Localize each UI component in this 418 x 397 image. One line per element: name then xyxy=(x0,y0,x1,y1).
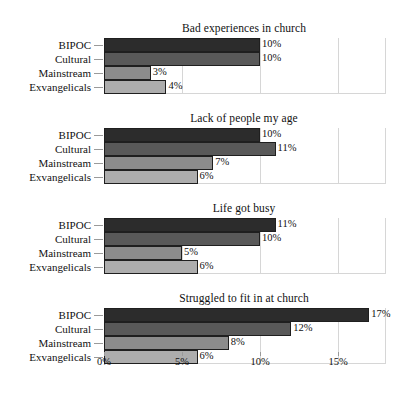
category-tick xyxy=(94,73,103,74)
bar-value-label: 6% xyxy=(198,169,214,183)
bar-mainstream xyxy=(104,156,213,170)
bar-row: 10% xyxy=(104,38,386,52)
category-label-mainstream: Mainstream xyxy=(0,246,91,260)
bar-mainstream xyxy=(104,336,229,350)
category-tick xyxy=(94,343,103,344)
chart-panel-2: Lack of people my ageBIPOCCulturalMainst… xyxy=(0,112,418,186)
bar-row: 5% xyxy=(104,246,386,260)
bar-bipoc xyxy=(104,308,369,322)
bar-value-label: 6% xyxy=(198,259,214,273)
bar-value-label: 4% xyxy=(166,79,182,93)
bar-value-label: 5% xyxy=(182,245,198,259)
plot-area: 10%10%3%4% xyxy=(104,38,386,94)
category-axis: BIPOCCulturalMainstreamExvangelicals xyxy=(0,308,103,364)
category-label-exvangelicals: Exvangelicals xyxy=(0,80,91,94)
bar-row: 4% xyxy=(104,80,386,94)
bar-bipoc xyxy=(104,218,276,232)
category-label-cultural: Cultural xyxy=(0,142,91,156)
x-tick-label-15: 15% xyxy=(328,356,347,368)
bar-value-label: 3% xyxy=(151,65,167,79)
category-label-bipoc: BIPOC xyxy=(0,218,91,232)
bar-cultural xyxy=(104,52,260,66)
category-tick xyxy=(94,45,103,46)
category-label-mainstream: Mainstream xyxy=(0,156,91,170)
category-label-exvangelicals: Exvangelicals xyxy=(0,170,91,184)
bar-value-label: 17% xyxy=(369,307,390,321)
bar-exvangelicals xyxy=(104,260,198,274)
chart-panel-1: Bad experiences in churchBIPOCCulturalMa… xyxy=(0,22,418,96)
bar-row: 10% xyxy=(104,232,386,246)
bar-row: 6% xyxy=(104,170,386,184)
panel-title: Bad experiences in church xyxy=(104,22,384,35)
bar-value-label: 10% xyxy=(260,51,281,65)
bar-value-label: 10% xyxy=(260,127,281,141)
chart-panel-3: Life got busyBIPOCCulturalMainstreamExva… xyxy=(0,202,418,276)
bar-row: 17% xyxy=(104,308,386,322)
bar-cultural xyxy=(104,142,276,156)
category-label-mainstream: Mainstream xyxy=(0,66,91,80)
bar-bipoc xyxy=(104,128,260,142)
bar-row: 10% xyxy=(104,128,386,142)
panel-title: Lack of people my age xyxy=(104,112,384,125)
category-tick xyxy=(94,253,103,254)
category-tick xyxy=(94,163,103,164)
category-tick xyxy=(94,87,103,88)
bar-value-label: 8% xyxy=(229,335,245,349)
category-tick xyxy=(94,149,103,150)
category-label-cultural: Cultural xyxy=(0,232,91,246)
category-axis: BIPOCCulturalMainstreamExvangelicals xyxy=(0,38,103,94)
multi-panel-bar-chart: Bad experiences in churchBIPOCCulturalMa… xyxy=(0,0,418,397)
bar-exvangelicals xyxy=(104,170,198,184)
category-label-exvangelicals: Exvangelicals xyxy=(0,350,91,364)
panel-title: Life got busy xyxy=(104,202,384,215)
bar-mainstream xyxy=(104,66,151,80)
category-tick xyxy=(94,239,103,240)
bar-value-label: 10% xyxy=(260,231,281,245)
bar-mainstream xyxy=(104,246,182,260)
bar-value-label: 11% xyxy=(276,217,297,231)
x-tick-label-10: 10% xyxy=(250,356,269,368)
category-tick xyxy=(94,267,103,268)
category-label-bipoc: BIPOC xyxy=(0,38,91,52)
bar-row: 11% xyxy=(104,218,386,232)
bar-row: 3% xyxy=(104,66,386,80)
category-axis: BIPOCCulturalMainstreamExvangelicals xyxy=(0,218,103,274)
bar-row: 10% xyxy=(104,52,386,66)
category-label-cultural: Cultural xyxy=(0,322,91,336)
category-tick xyxy=(94,177,103,178)
bar-value-label: 7% xyxy=(213,155,229,169)
category-tick xyxy=(94,135,103,136)
category-label-bipoc: BIPOC xyxy=(0,308,91,322)
category-tick xyxy=(94,225,103,226)
category-label-bipoc: BIPOC xyxy=(0,128,91,142)
x-tick-label-0: 0% xyxy=(97,356,111,368)
x-tick-label-5: 5% xyxy=(175,356,189,368)
panel-title: Struggled to fit in at church xyxy=(104,292,384,305)
bar-cultural xyxy=(104,322,291,336)
bar-exvangelicals xyxy=(104,80,166,94)
category-tick xyxy=(94,329,103,330)
bar-row: 6% xyxy=(104,260,386,274)
category-tick xyxy=(94,315,103,316)
bar-row: 12% xyxy=(104,322,386,336)
bar-row: 11% xyxy=(104,142,386,156)
bar-value-label: 12% xyxy=(291,321,312,335)
bar-row: 8% xyxy=(104,336,386,350)
plot-area: 10%11%7%6% xyxy=(104,128,386,184)
category-label-mainstream: Mainstream xyxy=(0,336,91,350)
bar-value-label: 10% xyxy=(260,37,281,51)
bar-bipoc xyxy=(104,38,260,52)
bar-cultural xyxy=(104,232,260,246)
bar-value-label: 11% xyxy=(276,141,297,155)
category-label-exvangelicals: Exvangelicals xyxy=(0,260,91,274)
category-tick xyxy=(94,59,103,60)
value-axis: 0%5%10%15% xyxy=(104,352,386,368)
plot-area: 11%10%5%6% xyxy=(104,218,386,274)
category-label-cultural: Cultural xyxy=(0,52,91,66)
category-axis: BIPOCCulturalMainstreamExvangelicals xyxy=(0,128,103,184)
bar-row: 7% xyxy=(104,156,386,170)
